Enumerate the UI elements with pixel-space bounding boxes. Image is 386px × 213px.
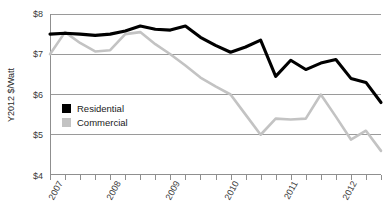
legend-label-commercial: Commercial: [77, 117, 128, 128]
y-tick-label: $5: [33, 130, 43, 140]
x-axis-tickmarks: [51, 175, 382, 180]
legend-swatch-commercial: [62, 118, 71, 127]
x-tick-label: 2010: [223, 179, 241, 201]
x-axis-tick-labels: 2007 2008 2009 2010 2011 2012: [47, 179, 359, 201]
y-tick-label: $7: [33, 49, 43, 59]
series-line-commercial: [50, 32, 381, 151]
x-tick-label: 2011: [282, 179, 300, 201]
solar-price-line-chart: Y2012 $/Watt $8 $7 $6 $5 $4 2007 2008 20…: [0, 0, 386, 213]
y-axis-tick-labels: $8 $7 $6 $5 $4: [33, 9, 43, 181]
y-axis-title: Y2012 $/Watt: [6, 67, 16, 122]
x-tick-label: 2008: [105, 179, 123, 201]
chart-svg: Y2012 $/Watt $8 $7 $6 $5 $4 2007 2008 20…: [0, 0, 386, 213]
y-tick-label: $4: [33, 171, 43, 181]
x-tick-label: 2012: [341, 179, 359, 201]
x-tick-label: 2009: [164, 179, 182, 201]
x-tick-label: 2007: [47, 179, 65, 201]
chart-legend: Residential Commercial: [62, 103, 128, 128]
y-tick-label: $6: [33, 90, 43, 100]
legend-label-residential: Residential: [77, 103, 124, 114]
series-line-residential: [50, 26, 381, 102]
legend-swatch-residential: [62, 104, 71, 113]
y-tick-label: $8: [33, 9, 43, 19]
